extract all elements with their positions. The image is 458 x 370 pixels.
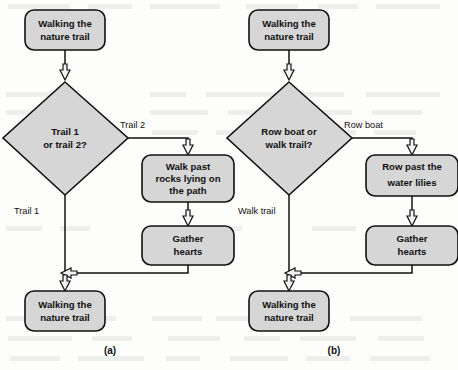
node-a-decision-line2: or trail 2? (43, 139, 87, 150)
node-b-start-line2: nature trail (264, 31, 314, 42)
node-a-process1[interactable]: Walk past rocks lying on the path (142, 155, 234, 202)
caption-a: (a) (104, 345, 116, 356)
node-b-process1-line1: Row past the (382, 161, 442, 172)
arrowhead-into-process2-icon (183, 210, 193, 226)
node-a-process1-line2: rocks lying on (155, 173, 220, 184)
node-a-start[interactable]: Walking the nature trail (25, 10, 105, 50)
node-a-process1-line3: the path (169, 185, 206, 196)
node-a-end-line1: Walking the (38, 299, 91, 310)
arrowhead-b-into-process1-icon (407, 139, 417, 155)
node-b-process2-line2: hearts (398, 246, 427, 257)
diagram-a: Walking the nature trail Trail 1 or trai… (3, 10, 234, 356)
caption-b: (b) (328, 345, 341, 356)
node-b-end-line2: nature trail (264, 312, 314, 323)
node-b-process1[interactable]: Row past the water lilies (366, 155, 458, 196)
arrowhead-into-process1-icon (183, 139, 193, 155)
node-a-end-line2: nature trail (40, 312, 90, 323)
arrowhead-into-decision-icon (60, 64, 70, 80)
node-b-process2[interactable]: Gather hearts (366, 226, 458, 265)
node-b-start[interactable]: Walking the nature trail (249, 10, 329, 50)
node-a-decision-line1: Trail 1 (51, 126, 79, 137)
node-b-end-line1: Walking the (262, 299, 315, 310)
node-a-start-line1: Walking the (38, 18, 91, 29)
arrowhead-b-into-process2-icon (407, 210, 417, 226)
node-a-process2[interactable]: Gather hearts (142, 226, 234, 265)
arrowhead-b-into-decision-icon (284, 64, 294, 80)
edge-label-a-branch-right: Trail 2 (120, 120, 145, 130)
node-b-decision-line2: walk trail? (265, 139, 313, 150)
node-b-start-line1: Walking the (262, 18, 315, 29)
flowchart-canvas: Walking the nature trail Trail 1 or trai… (0, 0, 458, 370)
edge-decision-to-process1 (128, 138, 188, 150)
flowchart-figure: Walking the nature trail Trail 1 or trai… (0, 0, 458, 370)
edge-b-decision-to-process1 (352, 138, 412, 150)
node-a-process2-line2: hearts (174, 246, 203, 257)
node-a-start-line2: nature trail (40, 31, 90, 42)
node-b-process1-line2: water lilies (386, 177, 436, 188)
node-b-process2-line1: Gather (397, 233, 428, 244)
node-b-decision[interactable]: Row boat or walk trail? (227, 82, 352, 195)
node-a-process1-line1: Walk past (166, 161, 211, 172)
edge-label-b-branch-down: Walk trail (238, 206, 275, 216)
node-b-decision-line1: Row boat or (261, 126, 317, 137)
node-a-end[interactable]: Walking the nature trail (25, 291, 105, 331)
edge-label-b-branch-right: Row boat (344, 120, 383, 130)
node-a-process2-line1: Gather (173, 233, 204, 244)
node-a-decision[interactable]: Trail 1 or trail 2? (3, 82, 128, 195)
node-b-end[interactable]: Walking the nature trail (249, 291, 329, 331)
diagram-b: Walking the nature trail Row boat or wal… (227, 10, 458, 356)
edge-label-a-branch-down: Trail 1 (14, 206, 39, 216)
